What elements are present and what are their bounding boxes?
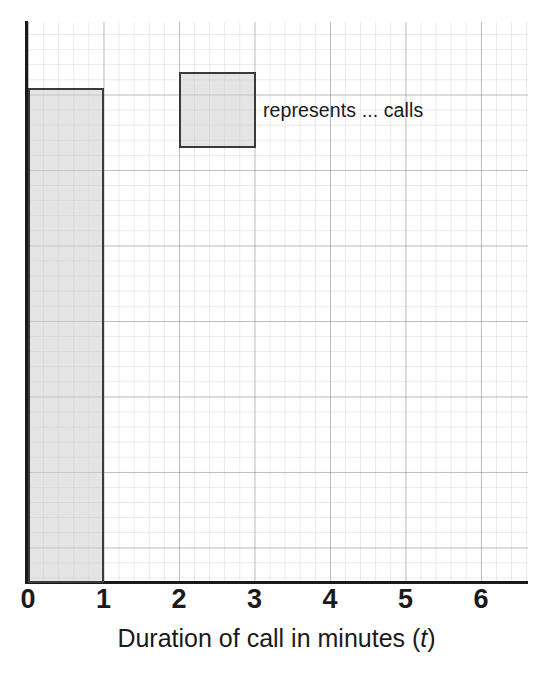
x-tick-label: 1	[84, 586, 124, 613]
x-tick-label: 5	[386, 586, 426, 613]
histogram-bar	[28, 88, 104, 583]
legend-label: represents ... calls	[263, 101, 423, 121]
histogram-figure: represents ... calls 0123456 Duration of…	[0, 0, 553, 673]
x-tick-label: 6	[461, 586, 501, 613]
x-axis-title: Duration of call in minutes (t)	[0, 626, 553, 651]
x-tick-label: 0	[8, 586, 48, 613]
x-tick-label: 2	[159, 586, 199, 613]
x-tick-label: 3	[235, 586, 275, 613]
x-axis-title-prefix: Duration of call in minutes (	[117, 624, 420, 652]
x-tick-label: 4	[310, 586, 350, 613]
x-axis-title-suffix: )	[427, 624, 435, 652]
legend-swatch	[179, 72, 256, 148]
